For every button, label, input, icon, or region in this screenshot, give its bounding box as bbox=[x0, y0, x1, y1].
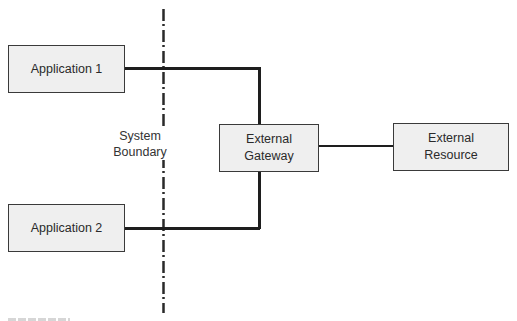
node-label-line1: External bbox=[428, 130, 474, 147]
edge-app1-vertical bbox=[258, 67, 261, 125]
system-boundary-label: System Boundary bbox=[108, 128, 172, 160]
node-application-1: Application 1 bbox=[8, 45, 125, 93]
edge-app2-horizontal bbox=[124, 227, 260, 230]
boundary-label-line1: System bbox=[108, 128, 172, 144]
node-application-2: Application 2 bbox=[8, 204, 125, 252]
node-label: Application 2 bbox=[31, 220, 103, 237]
boundary-label-line2: Boundary bbox=[108, 144, 172, 160]
node-external-resource: External Resource bbox=[393, 123, 509, 171]
edge-gateway-resource bbox=[318, 145, 394, 147]
node-label-line1: External bbox=[246, 131, 292, 148]
node-label: Application 1 bbox=[31, 61, 103, 78]
node-label-line2: Resource bbox=[424, 147, 478, 164]
node-external-gateway: External Gateway bbox=[219, 124, 319, 172]
edge-app2-vertical bbox=[258, 171, 261, 229]
edge-app1-horizontal bbox=[124, 67, 260, 70]
node-label-line2: Gateway bbox=[244, 148, 293, 165]
